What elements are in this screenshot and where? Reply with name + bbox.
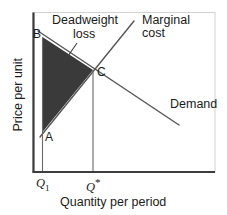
point-a-label: A	[45, 131, 53, 144]
deadweight-label: Deadweight	[52, 14, 118, 28]
demand-label: Demand	[170, 98, 217, 112]
x-tick-label-qstar: Q*	[86, 176, 101, 195]
qstar-superscript: *	[95, 176, 101, 188]
x-tick-label-q1: Q1	[36, 176, 50, 193]
q1-base: Q	[36, 176, 45, 190]
point-b-label: B	[33, 28, 41, 41]
y-axis-label: Price per unit	[12, 40, 26, 150]
point-c-label: C	[97, 66, 106, 79]
qstar-base: Q	[86, 180, 95, 194]
loss-label: loss	[73, 28, 95, 42]
q1-subscript: 1	[45, 183, 50, 193]
deadweight-loss-figure: Price per unit Quantity per period Deadw…	[0, 0, 227, 215]
x-axis-label: Quantity per period	[60, 196, 166, 210]
marginal-cost-label-line2: cost	[142, 27, 165, 41]
